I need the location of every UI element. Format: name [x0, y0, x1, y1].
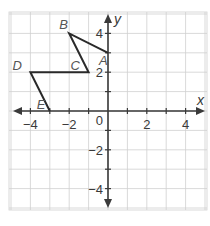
x-tick-label: 4 [182, 117, 189, 132]
x-tick-label: −4 [23, 117, 38, 132]
vertex-label-d: D [12, 58, 21, 73]
origin-label: 0 [96, 113, 103, 128]
y-tick-label: 4 [96, 26, 103, 41]
y-tick-label: −4 [88, 182, 103, 197]
x-axis-left-arrow-icon [13, 107, 22, 115]
x-tick-label: 2 [143, 117, 150, 132]
vertex-label-b: B [59, 17, 68, 32]
x-tick-label: −2 [62, 117, 77, 132]
x-axis-right-arrow-icon [196, 107, 205, 115]
y-axis-up-arrow-icon [104, 14, 112, 23]
vertex-label-c: C [71, 58, 81, 73]
coordinate-plane: −4−22442−2−4 0 x y ABCDE [0, 0, 210, 226]
y-tick-label: −2 [88, 143, 103, 158]
vertex-label-a: A [98, 53, 108, 68]
x-axis-label: x [196, 92, 205, 108]
y-axis-label: y [113, 11, 122, 27]
vertex-labels: ABCDE [12, 17, 107, 112]
y-axis-down-arrow-icon [104, 199, 112, 208]
vertex-label-e: E [37, 97, 46, 112]
